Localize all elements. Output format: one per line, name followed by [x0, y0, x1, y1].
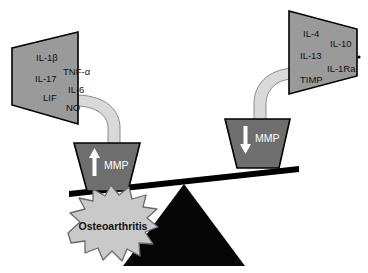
left-bucket: MMP — [74, 143, 140, 191]
figure-canvas: IL-1β TNF-α IL-17 IL-6 LIF NO IL-4 IL-10… — [0, 0, 368, 273]
left-panel-label: IL-1β — [36, 52, 58, 63]
left-bucket-label: MMP — [104, 159, 129, 171]
right-bucket: MMP — [225, 119, 290, 168]
right-panel-tip-dot — [357, 55, 360, 58]
left-panel-label: NO — [66, 102, 80, 113]
right-panel-label: IL-10 — [330, 38, 352, 49]
osteoarthritis-burst-label: Osteoarthritis — [79, 220, 148, 232]
right-panel-label: IL-1Ra — [327, 63, 356, 74]
right-panel-label: IL-4 — [303, 28, 319, 39]
left-panel-label: IL-17 — [35, 73, 57, 84]
left-panel-label: IL-6 — [68, 84, 84, 95]
right-panel-label: IL-13 — [300, 50, 322, 61]
left-panel-label: TNF-α — [63, 66, 91, 77]
left-tube — [78, 95, 120, 150]
right-panel-label: TIMP — [300, 74, 323, 85]
osteoarthritis-balance-figure: IL-1β TNF-α IL-17 IL-6 LIF NO IL-4 IL-10… — [0, 0, 368, 273]
left-panel-label: LIF — [43, 92, 57, 103]
right-bucket-label: MMP — [255, 132, 280, 144]
